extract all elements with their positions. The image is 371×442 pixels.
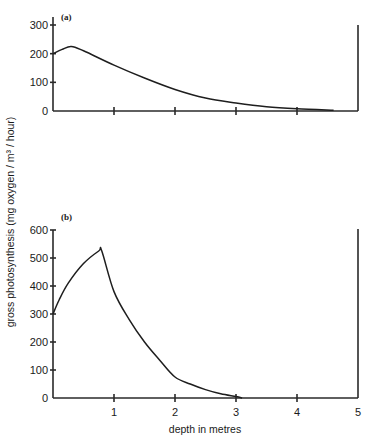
panel-label: (b)	[61, 212, 72, 222]
data-curve	[53, 247, 242, 398]
x-axis-title: depth in metres	[169, 423, 241, 435]
chart-panel-b: 010020030040050060012345(b)	[30, 212, 361, 418]
y-tick-label: 600	[30, 224, 48, 236]
y-tick-label: 100	[30, 364, 48, 376]
panel-label: (a)	[61, 12, 72, 22]
x-tick-label: 3	[233, 406, 239, 418]
y-tick-label: 400	[30, 280, 48, 292]
y-tick-label: 300	[30, 308, 48, 320]
x-tick-label: 2	[172, 406, 178, 418]
x-tick-label: 5	[355, 406, 361, 418]
photosynthesis-depth-figure: 0100200300(a) 010020030040050060012345(b…	[0, 0, 371, 442]
x-tick-label: 1	[111, 406, 117, 418]
y-tick-label: 300	[30, 19, 48, 31]
y-tick-label: 100	[30, 76, 48, 88]
data-curve	[53, 46, 334, 110]
y-tick-label: 200	[30, 48, 48, 60]
y-tick-label: 0	[42, 392, 48, 404]
chart-panel-a: 0100200300(a)	[30, 12, 358, 117]
y-tick-label: 0	[42, 105, 48, 117]
x-tick-label: 4	[294, 406, 300, 418]
y-axis-title: gross photosynthesis (mg oxygen / m³ / h…	[4, 117, 16, 328]
y-tick-label: 500	[30, 252, 48, 264]
y-tick-label: 200	[30, 336, 48, 348]
